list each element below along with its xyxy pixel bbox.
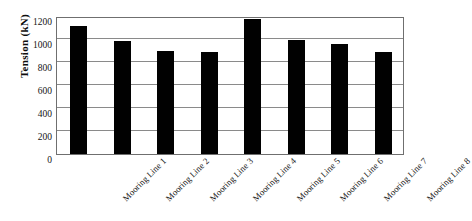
x-axis-tick-label: Mooring Line 2 xyxy=(164,156,211,203)
bar xyxy=(244,19,261,154)
bar xyxy=(114,41,131,154)
bar xyxy=(288,40,305,154)
x-axis-tick-label: Mooring Line 8 xyxy=(425,156,472,203)
x-axis-tick-label: Mooring Line 3 xyxy=(207,156,254,203)
x-axis-tick-label: Mooring Line 5 xyxy=(294,156,341,203)
bar xyxy=(157,51,174,154)
y-axis-tick-label: 600 xyxy=(14,86,52,96)
bar xyxy=(201,52,218,154)
x-axis-tick-label: Mooring Line 4 xyxy=(251,156,298,203)
x-axis-tick-label: Mooring Line 1 xyxy=(120,156,167,203)
y-axis-tick-label: 0 xyxy=(14,155,52,165)
y-axis-tick-label: 400 xyxy=(14,109,52,119)
bars-series xyxy=(57,18,403,154)
y-axis-tick-label: 800 xyxy=(14,63,52,73)
plot-area xyxy=(56,17,404,155)
x-axis-tick-label: Mooring Line 6 xyxy=(338,156,385,203)
bar xyxy=(331,44,348,154)
x-axis-tick-labels: Mooring Line 1Mooring Line 2Mooring Line… xyxy=(56,156,404,220)
y-axis-tick-label: 1200 xyxy=(14,17,52,27)
y-axis-tick-labels: 020040060080010001200 xyxy=(14,11,52,161)
y-axis-tick-label: 1000 xyxy=(14,40,52,50)
y-axis-tick-label: 200 xyxy=(14,132,52,142)
bar xyxy=(70,26,87,154)
bar xyxy=(375,52,392,154)
x-axis-tick-label: Mooring Line 7 xyxy=(381,156,428,203)
